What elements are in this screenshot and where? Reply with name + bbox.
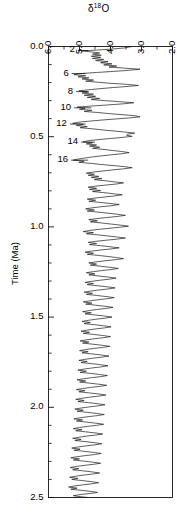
y-tick-label: 2.5	[17, 491, 44, 502]
y-tick-label: 0.0	[17, 40, 44, 51]
x-tick-label: 3.0	[135, 40, 146, 53]
mis-stage-label: 16	[49, 153, 68, 164]
mis-stage-label: 10	[52, 101, 71, 112]
figure-container: δ18O Time (Ma) 6.05.04.03.02.00.00.51.01…	[0, 0, 177, 518]
x-tick-label: 4.0	[104, 40, 115, 53]
plot-area	[0, 0, 177, 518]
mis-stage-label: 8	[54, 85, 73, 96]
x-tick-label: 2.0	[166, 40, 177, 53]
y-tick-label: 2.0	[17, 400, 44, 411]
mis-stage-label: 2	[56, 43, 75, 54]
mis-stage-label: 6	[50, 67, 69, 78]
mis-stage-label: 12	[48, 117, 67, 128]
y-tick-label: 0.5	[17, 130, 44, 141]
mis-stage-label: 14	[59, 135, 78, 146]
y-tick-label: 1.0	[17, 220, 44, 231]
y-tick-label: 1.5	[17, 310, 44, 321]
